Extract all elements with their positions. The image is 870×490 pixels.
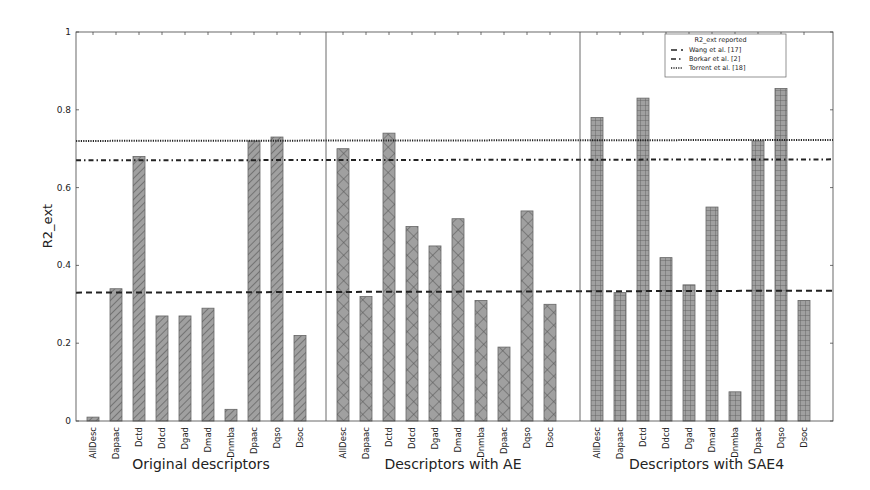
y-tick-label: 0: [65, 416, 71, 426]
bar: [591, 118, 603, 421]
bar: [406, 227, 418, 422]
group-label: Descriptors with SAE4: [629, 456, 784, 472]
bar-group: [337, 133, 556, 421]
bar: [798, 300, 810, 421]
y-tick-label: 0.4: [57, 260, 72, 270]
reference-line: [76, 159, 833, 160]
bar: [752, 141, 764, 421]
bar: [156, 316, 168, 421]
x-tick-label: Dmad: [707, 427, 717, 452]
x-tick-label: Dqso: [272, 427, 282, 449]
x-tick-label: Dmad: [203, 427, 213, 452]
x-tick-label: Dapaac: [615, 427, 625, 460]
bar: [637, 98, 649, 421]
bar: [271, 137, 283, 421]
bar: [683, 285, 695, 421]
x-tick-label: Dsoc: [545, 427, 555, 448]
bar: [614, 293, 626, 421]
bar: [133, 156, 145, 421]
x-tick-label: Ddcd: [407, 427, 417, 449]
group-label: Original descriptors: [132, 456, 269, 472]
x-tick-label: Dpaac: [499, 427, 509, 454]
x-tick-label: Dgad: [430, 427, 440, 450]
bar-group: [591, 88, 810, 421]
y-axis-label: R2_ext: [40, 204, 55, 248]
bar: [475, 300, 487, 421]
bar: [775, 88, 787, 421]
bar-group: [87, 137, 306, 421]
x-tick-label: Dctd: [134, 427, 144, 447]
bar: [202, 308, 214, 421]
x-tick-label: Dctd: [384, 427, 394, 447]
bar: [248, 141, 260, 421]
x-tick-label: Dqso: [776, 427, 786, 449]
legend-entry: Wang et al. [17]: [689, 46, 741, 54]
bar: [110, 289, 122, 421]
bar-chart: 00.20.40.60.81 AllDescDapaacDctdDdcdDgad…: [0, 0, 870, 490]
y-tick-label: 0.8: [57, 105, 72, 115]
legend-entry: Borkar et al. [2]: [689, 55, 740, 63]
x-tick-label: Dapaac: [361, 427, 371, 460]
x-tick-label: Dnmba: [226, 427, 236, 458]
bar: [706, 207, 718, 421]
x-tick-label: Dctd: [638, 427, 648, 447]
x-tick-label: Ddcd: [157, 427, 167, 449]
x-tick-label: Dpaac: [753, 427, 763, 454]
x-tick-label: Dapaac: [111, 427, 121, 460]
bar: [225, 409, 237, 421]
x-tick-label: AllDesc: [88, 427, 98, 459]
x-tick-label: Dpaac: [249, 427, 259, 454]
x-tick-label: Dmad: [453, 427, 463, 452]
group-label: Descriptors with AE: [384, 456, 521, 472]
bar: [179, 316, 191, 421]
bar: [337, 149, 349, 421]
bar: [87, 417, 99, 421]
bar: [429, 246, 441, 421]
legend-title: R2_ext reported: [694, 36, 746, 44]
x-tick-label: Dsoc: [295, 427, 305, 448]
x-tick-label: Dgad: [684, 427, 694, 450]
x-tick-label: Dsoc: [799, 427, 809, 448]
bars: [87, 88, 810, 421]
reference-line: [76, 140, 833, 141]
x-tick-label: Dqso: [522, 427, 532, 449]
y-tick-label: 0.2: [57, 338, 71, 348]
y-tick-label: 0.6: [57, 183, 72, 193]
x-tick-label: Dnmba: [730, 427, 740, 458]
x-tick-label: Ddcd: [661, 427, 671, 449]
y-tick-label: 1: [65, 27, 71, 37]
bar: [498, 347, 510, 421]
bar: [294, 335, 306, 421]
bar: [544, 304, 556, 421]
x-tick-label: Dgad: [180, 427, 190, 450]
x-tick-label: Dnmba: [476, 427, 486, 458]
bar: [660, 258, 672, 421]
legend-entry: Torrent et al. [18]: [688, 64, 746, 72]
bar: [360, 297, 372, 421]
bar: [521, 211, 533, 421]
legend: R2_ext reportedWang et al. [17]Borkar et…: [665, 34, 786, 77]
x-axis-labels: AllDescDapaacDctdDdcdDgadDmadDnmbaDpaacD…: [88, 427, 809, 472]
bar: [383, 133, 395, 421]
x-tick-label: AllDesc: [592, 427, 602, 459]
bar: [452, 219, 464, 421]
bar: [729, 392, 741, 421]
x-tick-label: AllDesc: [338, 427, 348, 459]
